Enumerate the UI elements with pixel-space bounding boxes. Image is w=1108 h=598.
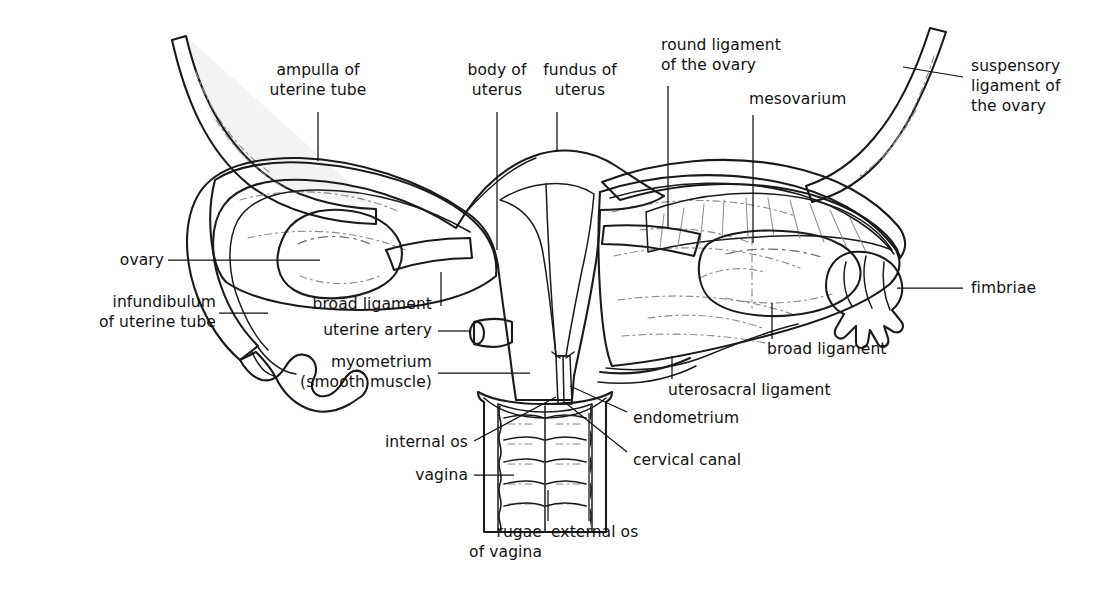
label-mesovarium: mesovarium — [749, 89, 889, 109]
vagina-structure — [478, 392, 612, 534]
cervical-canal-structure — [556, 356, 572, 404]
label-infundibulum-of-uterine-tube: infundibulumof uterine tube — [14, 292, 216, 332]
label-uterine-artery: uterine artery — [268, 320, 432, 340]
label-rugae-of-vagina: rugaeof vagina — [420, 522, 542, 562]
label-endometrium: endometrium — [633, 408, 793, 428]
label-internal-os: internal os — [340, 432, 468, 452]
label-fundus-of-uterus: fundus ofuterus — [525, 60, 635, 100]
label-suspensory-ligament-of-the-ovary: suspensoryligament ofthe ovary — [971, 56, 1107, 116]
uterine-cavity — [500, 183, 594, 356]
right-ovary — [699, 231, 861, 317]
label-round-ligament-of-the-ovary: round ligamentof the ovary — [661, 35, 841, 75]
left-ovary — [278, 210, 402, 299]
label-broad-ligament-right: broad ligament — [767, 339, 937, 359]
label-ampulla-of-uterine-tube: ampulla ofuterine tube — [232, 60, 404, 100]
anatomy-figure: .ol{fill:none;stroke:#1a1a1a;stroke-widt… — [0, 0, 1108, 598]
right-mesovarium — [646, 193, 892, 252]
label-ovary: ovary — [40, 250, 164, 270]
label-broad-ligament-left: broad ligament — [268, 294, 432, 314]
label-vagina: vagina — [340, 465, 468, 485]
leader-internal-os — [474, 397, 556, 441]
leader-cervical-canal — [567, 404, 627, 452]
label-fimbriae: fimbriae — [971, 278, 1091, 298]
label-myometrium-smooth-muscle: myometrium(smooth muscle) — [248, 352, 432, 392]
label-uterosacral-ligament: uterosacral ligament — [668, 380, 888, 400]
label-external-os: external os — [551, 522, 691, 542]
label-cervical-canal: cervical canal — [633, 450, 803, 470]
